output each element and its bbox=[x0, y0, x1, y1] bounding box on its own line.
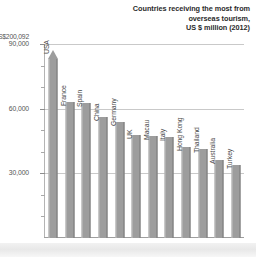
y-axis-tick-label: 30,000 bbox=[9, 169, 29, 176]
tourism-bar-chart: Countries receiving the most from overse… bbox=[0, 0, 256, 257]
bar-category-label: Turkey bbox=[225, 149, 232, 169]
bar[interactable] bbox=[215, 160, 224, 238]
bar-group[interactable]: Macau bbox=[145, 44, 162, 238]
bar-overflow-stem bbox=[49, 59, 58, 238]
bar-category-label: Germany bbox=[109, 98, 116, 126]
footer-band bbox=[0, 243, 256, 257]
bar-category-label: UK bbox=[126, 129, 133, 138]
chart-title-line-1: Countries receiving the most from bbox=[100, 4, 250, 14]
bar-group[interactable]: France bbox=[62, 44, 79, 238]
bar-category-label: China bbox=[93, 104, 100, 122]
bar-group[interactable]: UK bbox=[128, 44, 145, 238]
overflow-value-label: US$200,092 bbox=[0, 33, 29, 40]
bar[interactable] bbox=[148, 136, 157, 238]
bar-category-label: USA bbox=[43, 40, 50, 54]
bar[interactable] bbox=[181, 147, 190, 238]
bar-category-label: Thailand bbox=[192, 127, 199, 153]
y-axis-tick-label: 90,000 bbox=[9, 40, 29, 47]
bar[interactable] bbox=[99, 117, 108, 238]
chart-title-line-3: US $ million (2012) bbox=[100, 23, 250, 33]
bar[interactable] bbox=[132, 135, 141, 238]
bar[interactable] bbox=[198, 149, 207, 238]
bar-category-label: Macau bbox=[143, 119, 150, 139]
bar-group[interactable]: China bbox=[95, 44, 112, 238]
chart-title: Countries receiving the most from overse… bbox=[100, 4, 250, 33]
bar-series: USAFranceSpainChinaGermanyUKMacauItalyHo… bbox=[45, 44, 244, 238]
bar[interactable] bbox=[165, 137, 174, 238]
bar-group[interactable]: USA bbox=[45, 44, 62, 238]
bar[interactable] bbox=[231, 165, 240, 238]
y-axis-tick-label: 60,000 bbox=[9, 105, 29, 112]
bar[interactable] bbox=[115, 122, 124, 238]
bar-group[interactable]: Spain bbox=[78, 44, 95, 238]
bar-group[interactable]: Australia bbox=[211, 44, 228, 238]
chart-title-line-2: overseas tourism, bbox=[100, 14, 250, 24]
bar-category-label: Spain bbox=[76, 90, 83, 107]
bar-category-label: France bbox=[60, 85, 67, 106]
plot-area: US$200,092 90,00060,00030,000 USAFranceS… bbox=[44, 44, 244, 238]
bar-group[interactable]: Hong Kong bbox=[178, 44, 195, 238]
bar[interactable] bbox=[82, 103, 91, 238]
bar-group[interactable]: Turkey bbox=[227, 44, 244, 238]
bar-category-label: Australia bbox=[209, 138, 216, 164]
bar[interactable] bbox=[65, 102, 74, 238]
bar-category-label: Italy bbox=[159, 129, 166, 141]
bar-group[interactable]: Germany bbox=[111, 44, 128, 238]
bar-category-label: Hong Kong bbox=[176, 118, 183, 152]
